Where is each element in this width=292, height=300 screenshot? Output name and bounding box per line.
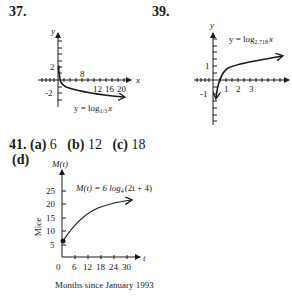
graph-41d: M(t) t 5 10 15 20 25 0 6 12 18 24 30 Mic… xyxy=(33,159,154,290)
equation-37: y = log1/3x xyxy=(74,103,112,114)
equation-41: M(t) = 6 log4(2t + 4) xyxy=(75,183,152,194)
y-tick-5: 5 xyxy=(50,240,55,250)
initial-point xyxy=(61,239,66,244)
graph-37: y x 2 -2 8 12 16 20 y = log1/3x xyxy=(38,26,140,114)
x-tick-12: 12 xyxy=(93,84,102,94)
x-tick-1: 1 xyxy=(224,84,229,94)
x-tick-6: 6 xyxy=(72,262,77,272)
x-tick-30: 30 xyxy=(122,262,132,272)
x-tick-20: 20 xyxy=(117,84,127,94)
y-axis-label: y xyxy=(50,26,55,36)
log-curve-right xyxy=(228,56,282,68)
x-title: Months since January 1993 xyxy=(55,280,154,290)
mice-curve xyxy=(63,200,131,241)
x-tick-3: 3 xyxy=(249,84,254,94)
y-tick-25: 25 xyxy=(46,186,56,196)
y-tick-neg1: -1 xyxy=(200,89,208,99)
x-tick-18: 18 xyxy=(96,262,106,272)
x-axis-label: x xyxy=(135,75,140,85)
y-axis-label: M(t) xyxy=(51,159,68,169)
y-tick-20: 20 xyxy=(46,199,56,209)
x-tick-16: 16 xyxy=(105,84,115,94)
y-axis-label: y xyxy=(209,20,214,30)
y-tick-2: 2 xyxy=(50,62,55,72)
y-title: Mice xyxy=(33,218,43,237)
x-axis-label: t xyxy=(143,253,146,263)
graphs-canvas: y x 2 -2 8 12 16 20 y = log1/3x xyxy=(0,0,292,300)
y-tick-neg2: -2 xyxy=(45,88,53,98)
y-tick-1: 1 xyxy=(205,61,210,71)
x-tick-0: 0 xyxy=(56,262,61,272)
x-tick-2: 2 xyxy=(236,84,241,94)
x-tick-24: 24 xyxy=(109,262,119,272)
y-tick-15: 15 xyxy=(46,213,56,223)
x-tick-12: 12 xyxy=(83,262,92,272)
x-tick-8: 8 xyxy=(80,69,85,79)
equation-39: y = log2.718x xyxy=(229,34,273,45)
graph-39: y 1 -1 1 2 3 y = log2.718x xyxy=(194,20,289,125)
y-tick-10: 10 xyxy=(46,226,56,236)
log-curve xyxy=(59,66,124,97)
